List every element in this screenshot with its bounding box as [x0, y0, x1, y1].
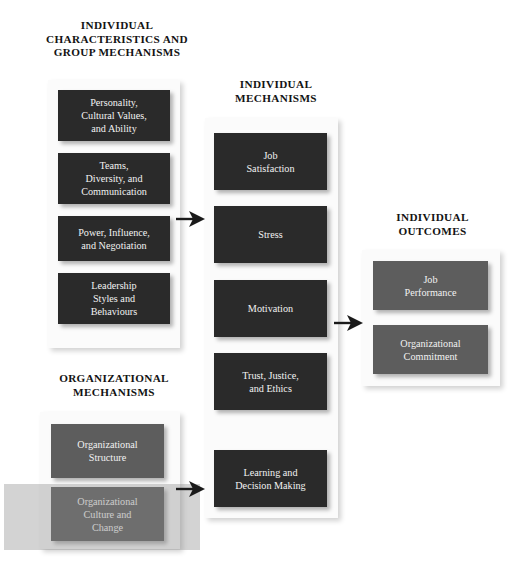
arrow-right-icon-mechanisms-to-outcomes — [334, 312, 364, 334]
concept-box-organizational-culture-and-change[interactable]: Organizational Culture and Change — [51, 487, 164, 541]
concept-box-teams[interactable]: Teams, Diversity, and Communication — [58, 153, 170, 204]
concept-box-stress[interactable]: Stress — [214, 206, 327, 263]
organizational-behaviour-diagram: INDIVIDUAL CHARACTERISTICS AND GROUP MEC… — [0, 0, 524, 586]
concept-box-power-influence-negotiation[interactable]: Power, Influence, and Negotiation — [58, 216, 170, 261]
concept-box-organizational-structure[interactable]: Organizational Structure — [51, 424, 164, 478]
concept-box-personality[interactable]: Personality, Cultural Values, and Abilit… — [58, 90, 170, 141]
arrow-right-icon-organizational-to-mechanisms — [176, 478, 206, 500]
section-heading-individual-characteristics: INDIVIDUAL CHARACTERISTICS AND GROUP MEC… — [22, 19, 212, 60]
section-heading-individual-mechanisms: INDIVIDUAL MECHANISMS — [202, 78, 350, 105]
concept-box-trust-justice-ethics[interactable]: Trust, Justice, and Ethics — [214, 353, 327, 410]
concept-box-learning-decision-making[interactable]: Learning and Decision Making — [214, 450, 327, 507]
concept-box-motivation[interactable]: Motivation — [214, 280, 327, 337]
section-heading-individual-outcomes: INDIVIDUAL OUTCOMES — [360, 211, 505, 238]
concept-box-job-satisfaction[interactable]: Job Satisfaction — [214, 133, 327, 190]
section-heading-organizational-mechanisms: ORGANIZATIONAL MECHANISMS — [38, 372, 190, 399]
concept-box-organizational-commitment[interactable]: Organizational Commitment — [373, 325, 488, 374]
arrow-right-icon-characteristics-to-mechanisms — [176, 208, 206, 230]
concept-box-job-performance[interactable]: Job Performance — [373, 261, 488, 310]
concept-box-leadership[interactable]: Leadership Styles and Behaviours — [58, 273, 170, 324]
